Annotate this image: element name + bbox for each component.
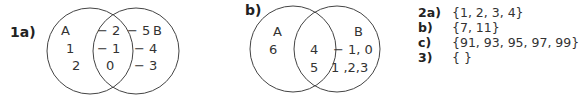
set-b-label: B: [354, 24, 363, 39]
set-a-label: A: [273, 24, 282, 39]
intersection-value: 5: [310, 60, 318, 75]
answer-value: {1, 2, 3, 4}: [452, 5, 524, 20]
answer-row: c){91, 93, 95, 97, 99}: [418, 35, 579, 50]
set-a-label: A: [61, 23, 70, 38]
only-b-value: 1 ,2,3: [331, 60, 368, 75]
intersection-value: − 1: [97, 41, 120, 56]
answer-row: 2a){1, 2, 3, 4}: [418, 5, 524, 20]
only-a-value: 2: [72, 58, 80, 73]
question-1a-label: 1a): [10, 24, 36, 40]
venn-b-circle-a: [250, 6, 336, 92]
answer-value: {7, 11}: [452, 20, 500, 35]
only-a-value: 1: [66, 41, 74, 56]
only-a-value: 6: [269, 42, 277, 57]
intersection-value: − 2: [97, 23, 120, 38]
answer-row: 3){ }: [418, 50, 472, 65]
set-b-label: B: [153, 23, 162, 38]
answer-label: b): [418, 20, 452, 35]
answer-value: { }: [452, 50, 472, 65]
question-1b-label: b): [245, 2, 261, 18]
answer-row: b){7, 11}: [418, 20, 500, 35]
only-b-value: − 1, 0: [333, 42, 373, 57]
only-b-value: − 3: [134, 58, 157, 73]
answer-label: 2a): [418, 5, 452, 20]
intersection-value: 4: [310, 42, 318, 57]
only-b-value: − 5: [127, 23, 150, 38]
answer-value: {91, 93, 95, 97, 99}: [452, 35, 579, 50]
answer-label: c): [418, 35, 452, 50]
intersection-value: 0: [106, 58, 114, 73]
answer-label: 3): [418, 50, 452, 65]
only-b-value: − 4: [134, 41, 157, 56]
